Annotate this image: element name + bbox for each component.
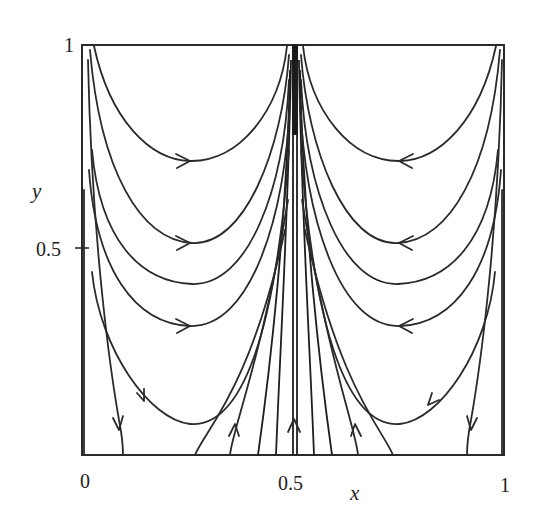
x-tick-label-1: 1 bbox=[500, 474, 510, 496]
right-streamlines bbox=[300, 46, 502, 455]
left-streamlines bbox=[84, 46, 290, 455]
arrow-up-icon bbox=[288, 419, 300, 432]
x-tick-label-0: 0 bbox=[80, 470, 90, 492]
x-axis-label: x bbox=[349, 481, 360, 505]
phase-portrait-figure: 1 0.5 y 0 0.5 x 1 bbox=[0, 0, 538, 520]
y-tick-label-0-5: 0.5 bbox=[36, 238, 61, 260]
y-axis-label: y bbox=[30, 179, 42, 203]
y-tick-label-1: 1 bbox=[64, 34, 74, 56]
flow-arrows bbox=[113, 154, 477, 436]
x-tick-label-0-5: 0.5 bbox=[278, 472, 303, 494]
